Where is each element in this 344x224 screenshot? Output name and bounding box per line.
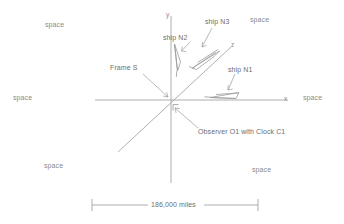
- frame-s-leader-arrow: [143, 74, 168, 97]
- y-axis-label: y: [166, 12, 169, 19]
- ship-n3-leader-arrow: [202, 28, 212, 47]
- space-label-mid-left: space: [13, 94, 32, 101]
- ship-n3-label: ship N3: [205, 18, 229, 25]
- observer-o1-marker: [173, 105, 179, 111]
- ship-n1-leader-arrow: [228, 74, 235, 90]
- ship-n2-leader-arrow: [182, 42, 191, 52]
- ship-n3-glyph: [189, 50, 220, 70]
- observer-o1-label: Observer O1 with Clock C1: [198, 128, 285, 135]
- space-time-diagram: x y z Frame S Observer O1 with Clock C1 …: [0, 0, 344, 224]
- space-label-bottom-right: space: [252, 166, 271, 173]
- ship-n2-label: ship N2: [163, 34, 187, 41]
- ship-n2-glyph: [175, 44, 181, 77]
- scale-bar-label: 186,000 miles: [151, 201, 196, 208]
- z-axis-line: [118, 47, 231, 152]
- space-label-bottom-left: space: [44, 162, 63, 169]
- x-axis-label: x: [284, 96, 287, 103]
- observer-leader-arrow: [175, 108, 198, 128]
- frame-s-label: Frame S: [110, 64, 138, 71]
- space-label-mid-right: space: [303, 94, 322, 101]
- space-label-top-right: space: [250, 16, 269, 23]
- ship-n1-glyph: [205, 93, 240, 99]
- ship-n1-label: ship N1: [228, 66, 252, 73]
- z-axis-label: z: [231, 42, 234, 49]
- space-label-top-left: space: [45, 21, 64, 28]
